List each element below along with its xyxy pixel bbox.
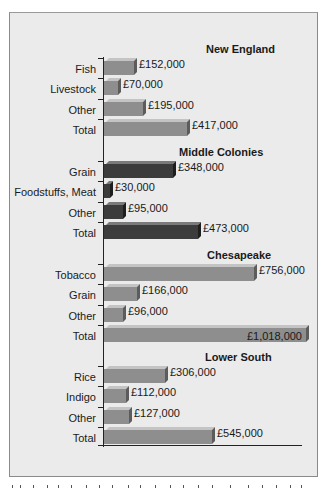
bar — [104, 122, 187, 136]
bar-side-face — [110, 181, 113, 198]
category-label: Total — [73, 330, 96, 342]
value-label: £96,000 — [128, 305, 168, 317]
category-label: Fish — [75, 63, 96, 75]
bar — [104, 287, 137, 301]
value-label: £348,000 — [178, 161, 224, 173]
bar-front-face — [104, 122, 187, 136]
bar — [104, 205, 123, 219]
bar — [104, 430, 212, 444]
category-label: Foodstuffs, Meat — [14, 186, 96, 198]
bar-front-face — [104, 205, 123, 219]
value-label: £70,000 — [123, 78, 163, 90]
bar — [104, 267, 254, 281]
value-label: £152,000 — [139, 58, 185, 70]
category-label: Other — [68, 104, 96, 116]
bar-side-face — [198, 222, 201, 239]
bar-front-face — [104, 430, 212, 444]
bar-front-face — [104, 184, 110, 198]
bar — [104, 389, 126, 403]
category-label: Total — [73, 432, 96, 444]
value-label: £545,000 — [217, 427, 263, 439]
bar — [104, 410, 129, 424]
bar-front-face — [104, 389, 126, 403]
category-label: Tobacco — [55, 269, 96, 281]
bar-side-face — [187, 119, 190, 136]
value-label: £95,000 — [128, 202, 168, 214]
value-label: £195,000 — [148, 99, 194, 111]
bar — [104, 81, 118, 95]
group-title: Chesapeake — [207, 249, 271, 261]
bar-front-face — [104, 225, 198, 239]
bar-front-face — [104, 61, 134, 75]
bar-side-face — [306, 325, 309, 342]
category-label: Other — [68, 412, 96, 424]
bar — [104, 61, 134, 75]
bar — [104, 369, 165, 383]
x-axis-line — [103, 445, 302, 446]
group-title: Lower South — [205, 351, 272, 363]
bar-side-face — [118, 78, 121, 95]
bar-front-face — [104, 267, 254, 281]
value-label: £112,000 — [131, 386, 176, 398]
bar — [104, 184, 110, 198]
value-label: £127,000 — [134, 407, 180, 419]
bar — [104, 308, 123, 322]
bar-side-face — [173, 161, 176, 178]
value-label: £30,000 — [115, 181, 155, 193]
value-label: £1,018,000 — [247, 330, 302, 342]
value-label: £306,000 — [170, 366, 216, 378]
category-label: Grain — [69, 289, 96, 301]
category-label: Grain — [69, 166, 96, 178]
category-label: Other — [68, 310, 96, 322]
bar-side-face — [123, 202, 126, 219]
value-label: £166,000 — [142, 284, 188, 296]
bar-front-face — [104, 102, 143, 116]
category-label: Total — [73, 227, 96, 239]
cropped-caption-fragments — [0, 482, 323, 488]
value-label: £473,000 — [203, 222, 249, 234]
bar-front-face — [104, 369, 165, 383]
category-label: Total — [73, 124, 96, 136]
bar-front-face — [104, 308, 123, 322]
category-label: Livestock — [50, 83, 96, 95]
bar-front-face — [104, 287, 137, 301]
bar — [104, 102, 143, 116]
bar — [104, 225, 198, 239]
value-label: £756,000 — [259, 264, 305, 276]
bar — [104, 164, 173, 178]
value-label: £417,000 — [192, 119, 238, 131]
group-title: New England — [206, 43, 275, 55]
bar-front-face — [104, 81, 118, 95]
category-label: Indigo — [66, 391, 96, 403]
group-title: Middle Colonies — [179, 146, 263, 158]
bar-side-face — [143, 99, 146, 116]
bar-front-face — [104, 164, 173, 178]
bar-front-face — [104, 410, 129, 424]
category-label: Rice — [74, 371, 96, 383]
category-label: Other — [68, 207, 96, 219]
y-axis-line — [103, 57, 104, 447]
